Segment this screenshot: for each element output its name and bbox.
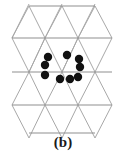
particle-dot [63,51,71,59]
particle-dot [56,75,64,83]
lattice-diagonal-line [12,38,29,72]
particle-dot [75,55,83,63]
particle-dot [41,71,49,79]
lattice-diagonal-line [95,72,112,105]
lattice-diagonal-line [12,4,29,38]
figure-caption: (b) [0,133,126,151]
particle-cluster-group [41,51,84,83]
figure-panel: (b) [0,0,126,156]
lattice-diagonal-line [62,6,78,38]
particle-dot [41,61,49,69]
lattice-diagonal-line [45,4,62,38]
lattice-diagonal-line [95,38,112,72]
particle-dot [74,73,82,81]
particle-dot [44,53,52,61]
lattice-horizontal-lines-group [12,6,112,133]
lattice-diagonal-line [78,4,95,38]
triangular-lattice-diagram [0,0,126,140]
lattice-diagonal-line [95,6,112,38]
lattice-diagonal-line [29,6,45,38]
lattice-diagonal-line [12,72,29,105]
lattice-diagonal-lines-group [12,4,112,138]
particle-dot [66,75,74,83]
particle-dot [76,63,84,71]
